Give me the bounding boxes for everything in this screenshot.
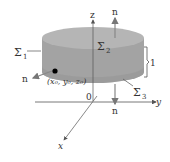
x-axis-label: x [58, 141, 63, 151]
y-axis-label: y [155, 97, 162, 107]
normal-top-label: n [112, 7, 118, 17]
z-axis-label: z [90, 10, 95, 20]
sigma3-label: Σ [133, 86, 141, 99]
normal-side-label: n [22, 74, 28, 84]
cylinder-diagram: z n n n Σ 1 Σ 2 Σ 3 1 (x₀, y₀, z₀) 0 y x [0, 0, 170, 162]
normal-bottom-label: n [112, 106, 118, 116]
sigma2-label: Σ [97, 40, 105, 53]
origin-label: 0 [86, 92, 92, 102]
sigma3-leader [123, 79, 133, 86]
x-axis [64, 96, 97, 140]
sigma1-subscript: 1 [23, 53, 27, 61]
sigma1-label: Σ [14, 46, 22, 59]
sigma2-subscript: 2 [106, 47, 110, 55]
height-bracket [144, 47, 149, 77]
point-label: (x₀, y₀, z₀) [47, 77, 86, 86]
height-label: 1 [150, 58, 156, 68]
point-marker [52, 68, 57, 73]
sigma3-subscript: 3 [142, 93, 146, 101]
